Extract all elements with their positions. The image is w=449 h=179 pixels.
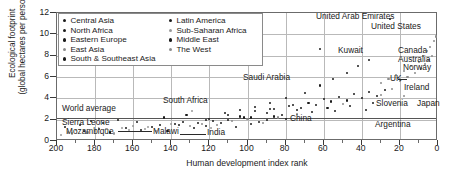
data-point <box>330 100 332 102</box>
x-axis-tick-label: 200 <box>36 143 76 153</box>
x-axis-tick-label: 80 <box>265 143 305 153</box>
legend-item-latin-america[interactable]: Latin America <box>169 16 247 26</box>
data-point <box>357 65 359 67</box>
y-axis-tick <box>50 33 56 34</box>
annotation-label: South Africa <box>163 96 208 105</box>
y-axis-tick-label: 12 <box>0 7 49 17</box>
legend-item-central-asia[interactable]: Central Asia <box>63 16 155 26</box>
data-point <box>220 122 222 124</box>
legend-column-2: Latin AmericaSub-Saharan AfricaMiddle Ea… <box>169 16 247 54</box>
legend-marker-dot-icon <box>63 57 66 60</box>
data-point <box>391 88 393 90</box>
annotation-label: Argentina <box>375 120 411 129</box>
data-point <box>288 105 290 107</box>
x-axis-tick-label: 0 <box>417 143 449 153</box>
x-axis-tick-label: 40 <box>341 143 381 153</box>
data-point <box>239 109 241 111</box>
x-axis-minor-tick <box>227 140 228 143</box>
data-point <box>266 112 268 114</box>
ecological-footprint-scatter-chart: Ecological footprint (global hectares pe… <box>0 0 449 179</box>
x-axis-tick-label: 180 <box>74 143 114 153</box>
y-axis-tick-label: 8 <box>0 49 49 59</box>
legend-column-1: Central AsiaNorth AfricaEastern EuropeEa… <box>63 16 155 64</box>
data-point <box>136 121 138 123</box>
legend-marker-dot-icon <box>63 19 66 22</box>
legend-item-south-southeast-asia[interactable]: South & Southeast Asia <box>63 54 155 64</box>
legend-item-middle-east[interactable]: Middle East <box>169 35 247 45</box>
legend-item-east-asia[interactable]: East Asia <box>63 45 155 55</box>
data-point <box>296 109 298 111</box>
legend: Central AsiaNorth AfricaEastern EuropeEa… <box>58 13 263 66</box>
data-point <box>212 120 214 122</box>
data-point <box>246 118 248 120</box>
data-point <box>174 123 176 125</box>
data-point <box>269 102 271 104</box>
annotation-label: Slovenia <box>376 99 408 108</box>
y-axis-tick <box>50 97 56 98</box>
data-point <box>304 92 306 94</box>
data-point <box>147 126 149 128</box>
data-point <box>60 134 62 136</box>
data-point <box>191 110 193 112</box>
annotation-leader-line <box>398 79 407 80</box>
data-point <box>224 112 226 114</box>
data-point <box>266 119 268 121</box>
data-point <box>433 40 435 42</box>
data-point <box>254 106 256 108</box>
x-axis-minor-tick <box>113 140 114 143</box>
legend-marker-dot-icon <box>169 29 172 32</box>
data-point <box>334 110 336 112</box>
y-axis-tick-label: 10 <box>0 28 49 38</box>
legend-item-label: East Asia <box>70 45 104 55</box>
legend-item-label: Latin America <box>176 16 225 26</box>
data-point <box>216 124 218 126</box>
data-point <box>125 127 127 129</box>
x-axis-tick-label: 140 <box>150 143 190 153</box>
annotation-label: Norway <box>403 63 431 72</box>
legend-item-label: Eastern Europe <box>70 35 126 45</box>
y-axis-tick <box>50 55 56 56</box>
data-point <box>346 99 348 101</box>
legend-item-the-west[interactable]: The West <box>169 45 247 55</box>
annotation-label: Japan <box>417 99 440 108</box>
data-point <box>250 123 252 125</box>
x-axis-minor-tick <box>151 140 152 143</box>
x-axis-minor-tick <box>304 140 305 143</box>
data-point <box>262 122 264 124</box>
y-axis-tick-label: 4 <box>0 92 49 102</box>
x-axis-minor-tick <box>418 140 419 143</box>
legend-item-north-africa[interactable]: North Africa <box>63 26 155 36</box>
annotation-leader-line <box>118 131 152 132</box>
data-point <box>368 91 370 93</box>
legend-item-sub-saharan-africa[interactable]: Sub-Saharan Africa <box>169 26 247 36</box>
legend-item-label: South & Southeast Asia <box>70 54 155 64</box>
data-point <box>193 127 195 129</box>
x-axis-tick-label: 100 <box>227 143 267 153</box>
data-point <box>406 76 408 78</box>
data-point <box>403 95 405 97</box>
annotation-label: Saudi Arabia <box>243 73 290 82</box>
x-axis-tick-label: 20 <box>379 143 419 153</box>
x-axis-tick-label: 120 <box>188 143 228 153</box>
y-axis-tick <box>50 76 56 77</box>
data-point <box>281 114 283 116</box>
legend-item-label: North Africa <box>70 26 112 36</box>
annotation-label: China <box>290 114 312 123</box>
data-point <box>277 116 279 118</box>
annotation-leader-line <box>180 134 206 135</box>
data-point <box>269 108 271 110</box>
data-point <box>254 110 256 112</box>
data-point <box>319 84 321 86</box>
data-point <box>235 126 237 128</box>
data-point <box>315 104 317 106</box>
x-axis-title: Human development index rank <box>56 158 438 168</box>
legend-item-eastern-europe[interactable]: Eastern Europe <box>63 35 155 45</box>
y-axis-tick-label: 6 <box>0 71 49 81</box>
data-point <box>201 123 203 125</box>
data-point <box>319 48 321 50</box>
data-point <box>326 107 328 109</box>
data-point <box>292 104 294 106</box>
data-point <box>353 93 355 95</box>
annotation-label: Malawi <box>153 127 179 136</box>
data-point <box>182 121 184 123</box>
